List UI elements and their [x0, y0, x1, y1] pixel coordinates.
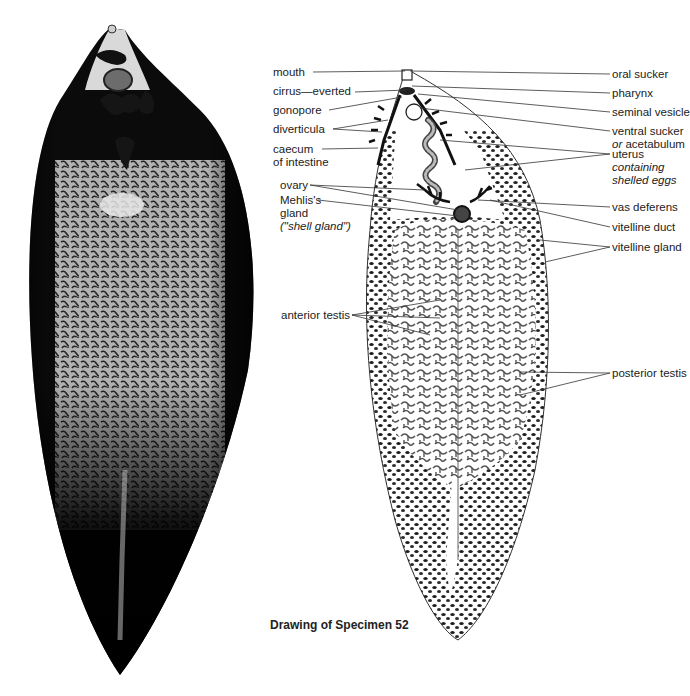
label-oral-sucker: oral sucker — [612, 68, 668, 81]
label-cirrus-everted: cirrus—everted — [273, 85, 351, 98]
label-uterus-line2: containing — [612, 161, 664, 174]
label-vas-deferens: vas deferens — [612, 201, 678, 214]
ventral-sucker-shape — [406, 104, 422, 120]
label-anterior-testis: anterior testis — [281, 309, 350, 322]
label-vitelline-duct: vitelline duct — [612, 221, 675, 234]
label-uterus-shelled-eggs: shelled eggs — [612, 174, 677, 186]
label-posterior-testis: posterior testis — [612, 367, 687, 380]
label-uterus-line3: shelled eggs — [612, 174, 677, 187]
label-diverticula: diverticula — [273, 123, 325, 136]
pharynx-shape — [399, 87, 415, 95]
label-mouth: mouth — [273, 66, 305, 79]
mehlis-gland-shape — [454, 206, 470, 222]
drawing-body — [360, 70, 560, 650]
oral-sucker-shape — [402, 70, 412, 80]
label-vitelline-gland: vitelline gland — [612, 241, 682, 254]
label-mehlis-line1: Mehlis's — [280, 194, 321, 207]
label-caecum-line2: of intestine — [273, 156, 329, 169]
label-pharynx: pharynx — [612, 87, 653, 100]
label-mehlis-line2: gland — [280, 207, 308, 220]
label-mehlis-italic: ("shell gland") — [280, 220, 351, 232]
figure-caption: Drawing of Specimen 52 — [270, 618, 409, 632]
label-seminal-vesicle: seminal vesicle — [612, 106, 690, 119]
label-gonopore: gonopore — [273, 104, 322, 117]
label-uterus-line1: uterus — [612, 148, 644, 161]
label-mehlis-line3: ("shell gland") — [280, 220, 351, 233]
label-ovary: ovary — [280, 179, 308, 192]
label-ventral-sucker-line1: ventral sucker — [612, 125, 684, 138]
label-uterus-containing: containing — [612, 161, 664, 173]
label-caecum-line1: caecum — [273, 143, 313, 156]
